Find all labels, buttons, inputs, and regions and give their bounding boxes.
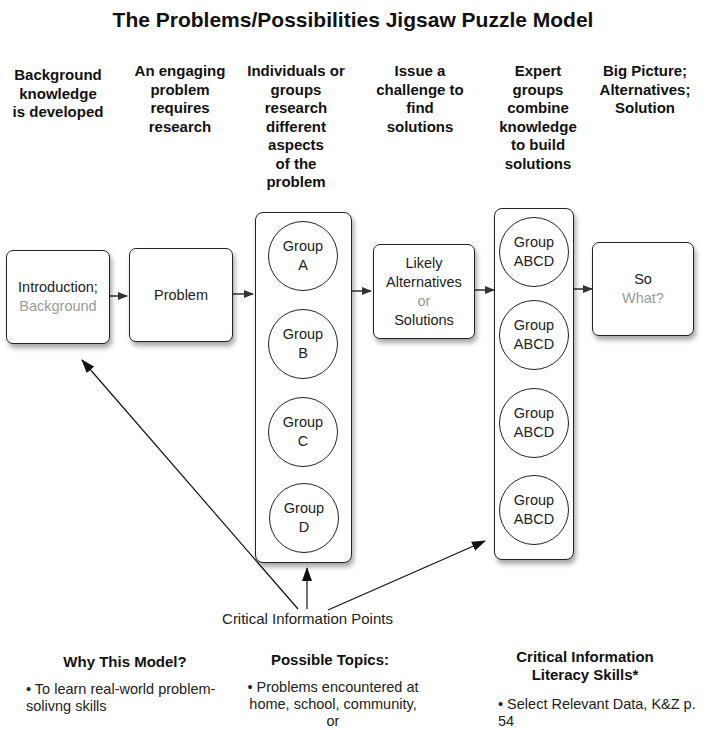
group-label: Group (283, 413, 323, 432)
heading-line: Literacy Skills* (480, 666, 690, 684)
why-this-model-body: • To learn real-world problem- solivng s… (26, 681, 246, 715)
group-letter: A (298, 256, 308, 275)
possible-topics-body: • Problems encountered at home, school, … (243, 679, 423, 730)
literacy-skills-body: • Select Relevant Data, K&Z p. 54 (498, 696, 706, 730)
critical-information-points-label: Critical Information Points (200, 610, 415, 627)
bullet-text: • Select Relevant Data, K&Z p. 54 (498, 696, 706, 730)
group-a-circle: Group A (268, 221, 338, 291)
expert-group-circle: Group ABCD (499, 475, 569, 545)
group-letters: ABCD (514, 335, 554, 354)
group-label: Group (514, 491, 554, 510)
bullet-text: solivng skills (26, 698, 246, 715)
problem-box: Problem (129, 248, 233, 342)
literacy-skills-heading: Critical Information Literacy Skills* (480, 648, 690, 684)
group-letters: ABCD (514, 510, 554, 529)
bullet-text: • To learn real-world problem- (26, 681, 246, 698)
group-label: Group (284, 499, 324, 518)
box-label: Problem (154, 286, 208, 305)
heading-line: Critical Information (480, 648, 690, 666)
group-letters: ABCD (514, 252, 554, 271)
research-groups-column: Group A Group B Group C Group D (255, 212, 352, 563)
box-label: Introduction; (18, 278, 98, 297)
group-d-circle: Group D (269, 483, 339, 553)
introduction-box: Introduction; Background (6, 250, 110, 344)
group-label: Group (514, 233, 554, 252)
group-label: Group (283, 325, 323, 344)
group-label: Group (514, 404, 554, 423)
box-label: So (634, 270, 652, 289)
group-letter: D (299, 518, 309, 537)
expert-group-circle: Group ABCD (499, 217, 569, 287)
box-label: Likely (405, 254, 442, 273)
expert-groups-column: Group ABCD Group ABCD Group ABCD Group A… (494, 208, 574, 560)
bullet-text: • Problems encountered at (243, 679, 423, 696)
box-label: Alternatives (386, 273, 462, 292)
so-what-box: So What? (592, 242, 694, 336)
box-label: Background (19, 297, 96, 316)
bullet-text: home, school, community, or (243, 696, 423, 730)
group-c-circle: Group C (268, 397, 338, 467)
box-label: Solutions (394, 311, 454, 330)
group-b-circle: Group B (268, 309, 338, 379)
expert-group-circle: Group ABCD (499, 300, 569, 370)
group-label: Group (283, 237, 323, 256)
box-label: What? (622, 289, 664, 308)
why-this-model-heading: Why This Model? (20, 653, 230, 671)
group-letters: ABCD (514, 423, 554, 442)
group-letter: C (298, 432, 308, 451)
group-letter: B (298, 344, 308, 363)
expert-group-circle: Group ABCD (499, 388, 569, 458)
possible-topics-heading: Possible Topics: (240, 651, 420, 669)
group-label: Group (514, 316, 554, 335)
box-label: or (418, 292, 431, 311)
likely-alternatives-box: Likely Alternatives or Solutions (373, 244, 475, 339)
